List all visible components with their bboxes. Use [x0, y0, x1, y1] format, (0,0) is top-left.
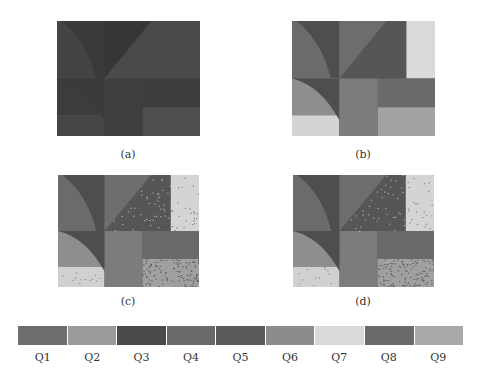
legend-label-q5: Q5 [216, 351, 265, 364]
legend-swatch-q2 [68, 326, 117, 345]
region-mid-column [340, 231, 378, 287]
legend-swatch-q9 [415, 326, 464, 345]
region-top-right [171, 175, 199, 231]
legend-swatch-q6 [266, 326, 315, 345]
color-legend-labels: Q1Q2Q3Q4Q5Q6Q7Q8Q9 [18, 351, 463, 364]
legend-swatch-q4 [167, 326, 216, 345]
region-top-right [171, 21, 200, 79]
region-right-mid [378, 79, 435, 108]
legend-swatch-q1 [18, 326, 67, 345]
panel-a-caption: (a) [98, 148, 158, 161]
legend-label-q1: Q1 [18, 351, 67, 364]
legend-label-q8: Q8 [364, 351, 413, 364]
region-right-mid [378, 231, 434, 259]
panel-d-image [293, 175, 434, 287]
legend-label-q6: Q6 [265, 351, 314, 364]
panel-d-caption: (d) [333, 295, 393, 308]
legend-swatch-q3 [117, 326, 166, 345]
legend-label-q4: Q4 [166, 351, 215, 364]
color-legend [18, 326, 463, 345]
panel-b-image [292, 21, 435, 136]
panel-b-caption: (b) [333, 148, 393, 161]
legend-swatch-q8 [365, 326, 414, 345]
region-bottom-left [58, 267, 105, 287]
region-bottom-left [57, 115, 104, 136]
panel-c-caption: (c) [98, 295, 158, 308]
region-mid-column [105, 231, 143, 287]
legend-label-q3: Q3 [117, 351, 166, 364]
legend-swatch-q7 [315, 326, 364, 345]
region-top-right [406, 21, 435, 79]
region-right-mid [143, 231, 199, 259]
region-bottom-right [143, 259, 199, 287]
region-right-mid [143, 79, 200, 108]
region-bottom-right [143, 107, 200, 136]
region-bottom-right [378, 107, 435, 136]
region-mid-column [339, 79, 378, 137]
panel-a-image [57, 21, 200, 136]
legend-swatch-q5 [216, 326, 265, 345]
legend-label-q7: Q7 [315, 351, 364, 364]
legend-label-q2: Q2 [67, 351, 116, 364]
legend-label-q9: Q9 [414, 351, 463, 364]
region-mid-column [104, 79, 143, 137]
region-bottom-left [292, 115, 339, 136]
panel-c-image [58, 175, 199, 287]
